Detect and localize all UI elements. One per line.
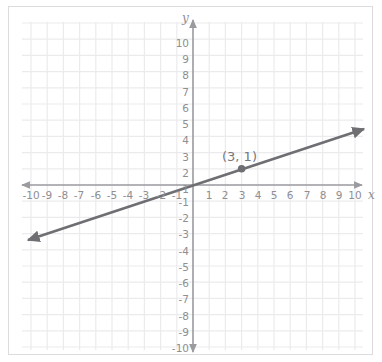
y-tick-label--3: -3 [165, 229, 189, 240]
y-tick-label-6: 6 [165, 103, 189, 114]
x-axis-name: x [368, 189, 375, 201]
y-tick-label--8: -8 [165, 311, 189, 322]
y-tick-label--6: -6 [165, 278, 189, 289]
y-tick-label--2: -2 [165, 213, 189, 224]
y-tick-label--4: -4 [165, 246, 189, 257]
y-tick-label-3: 3 [165, 152, 189, 163]
y-tick-label-5: 5 [165, 119, 189, 130]
x-tick-label-10: 10 [343, 190, 367, 201]
y-tick-label--5: -5 [165, 262, 189, 273]
y-tick-label--1: -1 [165, 197, 189, 208]
y-tick-label-2: 2 [165, 168, 189, 179]
y-tick-label--7: -7 [165, 294, 189, 305]
y-tick-label--10: -10 [161, 343, 189, 354]
y-tick-label-4: 4 [165, 135, 189, 146]
y-tick-label-8: 8 [165, 70, 189, 81]
y-tick-label-7: 7 [165, 87, 189, 98]
graph-canvas [0, 0, 382, 362]
y-tick-label-9: 9 [165, 54, 189, 65]
plotted-point [238, 165, 246, 173]
coordinate-plane-figure: -10 -9 -8 -7 -6 -5 -4 -3 -2 -1 1 2 3 4 5… [0, 0, 382, 362]
y-axis-name: y [182, 12, 189, 24]
y-tick-label-10: 10 [165, 38, 189, 49]
y-tick-label--9: -9 [165, 327, 189, 338]
point-annotation-label: (3, 1) [222, 150, 257, 163]
y-tick-label-1: 1 [165, 184, 189, 195]
